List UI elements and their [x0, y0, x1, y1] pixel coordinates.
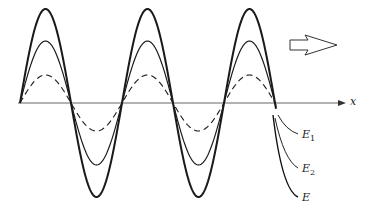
- curve-label-e1-main: E: [302, 128, 310, 141]
- leader-e2: [275, 118, 298, 168]
- curve-label-e2: E2: [302, 162, 315, 177]
- curve-label-e2-sub: 2: [310, 168, 315, 177]
- x-axis-arrowhead-icon: [338, 100, 346, 106]
- curve-label-e-main: E: [302, 191, 310, 204]
- curve-label-e1: E1: [302, 128, 315, 143]
- curve-label-e: E: [302, 191, 310, 204]
- leader-e1: [278, 115, 298, 134]
- curve-label-e2-main: E: [302, 162, 310, 175]
- curve-label-e1-sub: 1: [310, 134, 315, 143]
- axis-label-x: x: [350, 95, 356, 108]
- propagation-arrow-icon: [290, 35, 337, 55]
- wave-diagram: [0, 0, 376, 215]
